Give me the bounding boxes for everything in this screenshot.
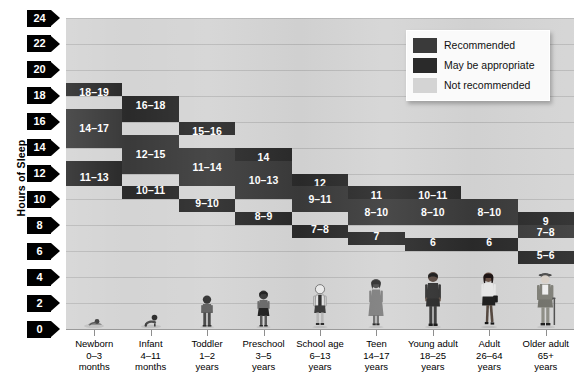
adult-woman-icon <box>461 271 517 328</box>
bar-value-label: 10–13 <box>235 174 291 186</box>
legend-item-label: May be appropriate <box>444 59 534 71</box>
gridline <box>66 18 574 19</box>
bar-value-label: 11–13 <box>66 171 122 183</box>
bar-segment-newborn-maybe: 11–13 <box>66 161 122 187</box>
bar-value-label: 12–15 <box>122 148 178 160</box>
y-axis-tick-label: 14 <box>27 139 51 156</box>
bar-segment-school-age-maybe: 12 <box>292 174 348 187</box>
bar-value-label: 14–17 <box>66 122 122 134</box>
bar-value-label: 7–8 <box>292 223 348 235</box>
older-adult-man-icon <box>518 271 574 328</box>
bar-segment-young-adult-maybe: 10–11 <box>405 186 461 199</box>
tick-arrow-icon <box>51 10 60 26</box>
baby-lying-icon <box>66 317 122 328</box>
bar-segment-newborn-rec: 14–17 <box>66 109 122 148</box>
legend-item-2: Not recommended <box>413 76 543 94</box>
tick-arrow-icon <box>51 295 60 311</box>
tick-arrow-icon <box>51 114 60 130</box>
baby-crawling-icon <box>122 314 178 328</box>
bar-segment-school-age-rec: 9–11 <box>292 186 348 212</box>
bar-value-label: 7 <box>348 230 404 242</box>
y-axis-tick-20: 20 <box>27 61 60 78</box>
legend: RecommendedMay be appropriateNot recomme… <box>406 30 550 101</box>
schoolchild-standing-icon <box>292 284 348 328</box>
y-axis-tick-label: 20 <box>27 61 51 78</box>
bar-segment-preschool-maybe: 8–9 <box>235 212 291 225</box>
y-axis-tick-label: 6 <box>27 243 51 260</box>
bar-segment-older-adult-maybe: 5–6 <box>518 251 574 264</box>
y-axis-tick-8: 8 <box>27 217 60 234</box>
legend-item-label: Not recommended <box>444 79 530 91</box>
bar-value-label: 7–8 <box>518 226 574 238</box>
y-axis-title: Hours of Sleep <box>15 123 27 233</box>
y-axis-tick-22: 22 <box>27 35 60 52</box>
y-axis-tick-label: 10 <box>27 191 51 208</box>
x-axis-tick <box>489 330 490 336</box>
bar-value-label: 6 <box>461 236 517 248</box>
tick-arrow-icon <box>51 269 60 285</box>
tick-arrow-icon <box>51 36 60 52</box>
tick-arrow-icon <box>51 217 60 233</box>
y-axis-tick-0: 0 <box>27 321 60 338</box>
y-axis-tick-label: 24 <box>27 10 51 27</box>
y-axis-tick-label: 12 <box>27 165 51 182</box>
tick-arrow-icon <box>51 140 60 156</box>
color-swatch <box>413 78 437 93</box>
bar-segment-preschool-maybe: 14 <box>235 148 291 161</box>
y-axis-tick-10: 10 <box>27 191 60 208</box>
bar-value-label: 6 <box>405 236 461 248</box>
y-axis-tick-24: 24 <box>27 10 60 27</box>
tick-arrow-icon <box>51 243 60 259</box>
y-axis-tick-label: 16 <box>27 113 51 130</box>
legend-item-label: Recommended <box>444 39 515 51</box>
preschooler-standing-icon <box>235 290 291 328</box>
bar-value-label: 8–10 <box>348 206 404 218</box>
x-axis-tick <box>264 330 265 336</box>
x-axis-tick <box>546 330 547 336</box>
tick-arrow-icon <box>51 88 60 104</box>
bar-segment-infant-maybe: 10–11 <box>122 186 178 199</box>
y-axis-tick-6: 6 <box>27 243 60 260</box>
x-axis-label-older-adult: Older adult65+years <box>508 338 582 373</box>
x-axis-tick <box>376 330 377 336</box>
bar-segment-teen-rec: 8–10 <box>348 199 404 225</box>
x-axis-tick <box>433 330 434 336</box>
tick-arrow-icon <box>51 321 60 337</box>
y-axis-tick-label: 22 <box>27 35 51 52</box>
y-axis-tick-label: 4 <box>27 269 51 286</box>
x-axis-tick <box>320 330 321 336</box>
tick-arrow-icon <box>51 191 60 207</box>
bar-segment-toddler-maybe: 9–10 <box>179 199 235 212</box>
y-axis-tick-2: 2 <box>27 295 60 312</box>
bar-segment-adult-rec: 8–10 <box>461 199 517 225</box>
y-axis-tick-18: 18 <box>27 87 60 104</box>
bar-segment-infant-rec: 12–15 <box>122 135 178 174</box>
y-axis-tick-16: 16 <box>27 113 60 130</box>
x-axis-tick <box>94 330 95 336</box>
color-swatch <box>413 38 437 53</box>
bar-value-label: 8–9 <box>235 210 291 222</box>
y-axis-tick-label: 2 <box>27 295 51 312</box>
bar-segment-young-adult-maybe: 6 <box>405 238 461 251</box>
bar-segment-young-adult-rec: 8–10 <box>405 199 461 225</box>
tick-arrow-icon <box>51 166 60 182</box>
tick-arrow-icon <box>51 62 60 78</box>
y-axis-tick-4: 4 <box>27 269 60 286</box>
bar-value-label: 8–10 <box>461 206 517 218</box>
bar-value-label: 16–18 <box>122 99 178 111</box>
bar-segment-toddler-rec: 11–14 <box>179 148 235 187</box>
sleep-duration-chart: Hours of Sleep 242220181614121086420 18–… <box>0 0 582 383</box>
bar-value-label: 8–10 <box>405 206 461 218</box>
bar-value-label: 11–14 <box>179 161 235 173</box>
color-swatch <box>413 58 437 73</box>
bar-value-label: 18–19 <box>66 86 122 98</box>
bar-segment-newborn-maybe: 18–19 <box>66 83 122 96</box>
teen-standing-icon <box>348 278 404 328</box>
y-axis-tick-label: 8 <box>27 217 51 234</box>
bar-segment-school-age-maybe: 7–8 <box>292 225 348 238</box>
y-axis-tick-label: 0 <box>27 321 51 338</box>
bar-segment-teen-maybe: 7 <box>348 232 404 245</box>
toddler-standing-icon <box>179 295 235 328</box>
legend-item-0: Recommended <box>413 36 543 54</box>
bar-segment-older-adult-maybe: 9 <box>518 212 574 225</box>
